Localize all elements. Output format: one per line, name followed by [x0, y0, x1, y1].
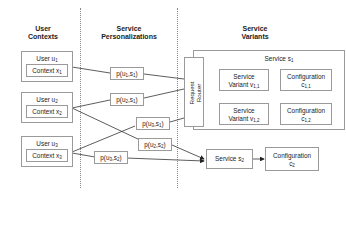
user-box-2: User u2 Context x2: [21, 92, 73, 123]
configuration-1-2: Configuration c1,2: [280, 103, 332, 125]
personalization-u1-s1: p(u1,s1): [110, 67, 144, 80]
configuration-2: Configuration c2: [265, 147, 319, 171]
service-variant-1-1: Service Variant v1,1: [219, 69, 269, 91]
configuration-1-1: Configuration c1,1: [280, 69, 332, 91]
context-box: Context x1: [26, 64, 68, 77]
user-box-1: User u1 Context x1: [21, 51, 73, 82]
personalization-u3-s2: p(u3,s2): [94, 151, 128, 164]
context-box: Context x2: [26, 105, 68, 118]
user-box-3: User u3 Context x3: [21, 136, 73, 167]
request-router: Request Router: [184, 57, 204, 127]
context-box: Context x3: [26, 149, 68, 162]
personalization-u2-s1: p(u2,s1): [110, 93, 144, 106]
request-router-label: Request Router: [188, 58, 202, 128]
service-s1-title: Service s1: [194, 55, 344, 65]
service-s2: Service s2: [206, 149, 253, 169]
personalization-u2-s2: p(u2,s2): [138, 138, 172, 151]
service-variant-1-2: Service Variant v1,2: [219, 103, 269, 125]
personalization-u3-s1: p(u3,s1): [136, 117, 170, 130]
